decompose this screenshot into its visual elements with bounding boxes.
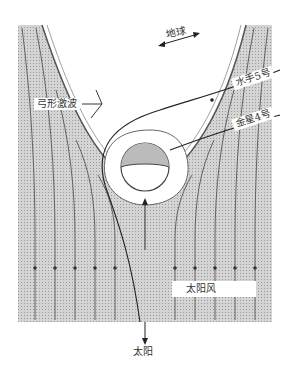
bow-shock-label: 弓形激波: [34, 98, 80, 110]
bow-shock-pointer: [82, 90, 102, 118]
venus-planet: [121, 143, 169, 191]
diagram: 地球 弓形激波 水手5号 金星4号 太阳风 太阳: [0, 0, 294, 374]
sun-label: 太阳: [133, 346, 153, 358]
solar-wind-label: 太阳风: [172, 281, 256, 297]
